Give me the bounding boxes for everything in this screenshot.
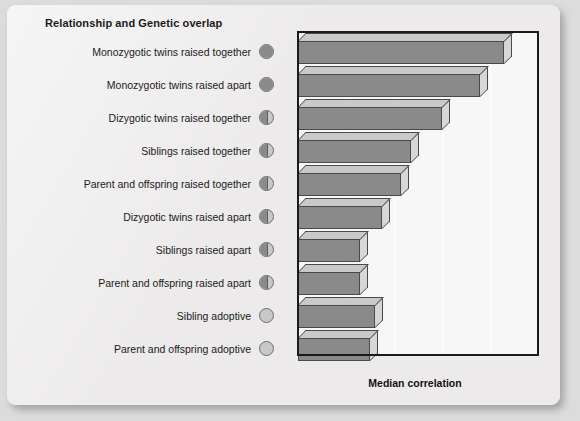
overlap-divider — [267, 210, 268, 223]
genetic-overlap-icon — [259, 110, 274, 125]
bar — [298, 198, 391, 231]
axis-top — [297, 31, 539, 33]
genetic-overlap-icon — [259, 77, 274, 92]
overlap-divider — [267, 276, 268, 289]
bar-front-face — [298, 74, 480, 97]
genetic-overlap-icon — [259, 308, 274, 323]
overlap-divider — [267, 111, 268, 124]
bar — [298, 99, 451, 132]
bar-front-face — [298, 338, 370, 361]
bar-front-face — [298, 239, 360, 262]
bar-top-face — [298, 99, 451, 107]
genetic-overlap-icon — [259, 176, 274, 191]
overlap-divider — [267, 177, 268, 190]
bar-top-face — [298, 297, 384, 305]
category-label: Parent and offspring raised together — [84, 178, 251, 190]
bar-top-face — [298, 198, 391, 206]
bar-front-face — [298, 305, 375, 328]
figure-card: Relationship and Genetic overlap Monozyg… — [7, 5, 560, 405]
category-label: Monozygotic twins raised apart — [107, 79, 251, 91]
bar-front-face — [298, 206, 382, 229]
category-label: Parent and offspring adoptive — [114, 343, 251, 355]
bar-front-face — [298, 272, 360, 295]
category-label: Siblings raised apart — [156, 244, 251, 256]
category-label: Parent and offspring raised apart — [98, 277, 251, 289]
category-label: Sibling adoptive — [177, 310, 251, 322]
category-label-column: Monozygotic twins raised togetherMonozyg… — [37, 31, 251, 356]
genetic-overlap-icon — [259, 143, 274, 158]
bar-front-face — [298, 107, 442, 130]
bar — [298, 33, 513, 66]
category-label: Monozygotic twins raised together — [92, 46, 251, 58]
screenshot-root: Relationship and Genetic overlap Monozyg… — [0, 0, 580, 421]
genetic-overlap-icon — [259, 44, 274, 59]
overlap-fill — [260, 45, 273, 58]
axis-y — [297, 31, 299, 356]
bar-front-face — [298, 140, 411, 163]
overlap-divider — [267, 243, 268, 256]
axis-right — [537, 31, 539, 356]
bar-top-face — [298, 165, 410, 173]
gridline — [490, 31, 491, 356]
genetic-overlap-icon — [259, 275, 274, 290]
genetic-overlap-icon — [259, 242, 274, 257]
bar-top-face — [298, 33, 513, 41]
genetic-overlap-icon — [259, 209, 274, 224]
bar-top-face — [298, 330, 379, 338]
bar — [298, 231, 369, 264]
bar — [298, 297, 384, 330]
category-label: Dizygotic twins raised together — [109, 112, 251, 124]
bar-front-face — [298, 173, 401, 196]
bar-top-face — [298, 264, 369, 272]
genetic-overlap-icon — [259, 341, 274, 356]
page-title: Relationship and Genetic overlap — [45, 17, 222, 29]
bar-top-face — [298, 132, 420, 140]
bar-front-face — [298, 41, 504, 64]
overlap-divider — [267, 144, 268, 157]
category-label: Dizygotic twins raised apart — [123, 211, 251, 223]
bar — [298, 264, 369, 297]
bar-top-face — [298, 66, 489, 74]
plot-area — [291, 31, 539, 356]
bar — [298, 330, 379, 363]
figure-surface: Relationship and Genetic overlap Monozyg… — [7, 5, 560, 405]
bar — [298, 132, 420, 165]
category-label: Siblings raised together — [141, 145, 251, 157]
bar — [298, 66, 489, 99]
bar — [298, 165, 410, 198]
overlap-fill — [260, 78, 273, 91]
genetic-overlap-column — [255, 31, 285, 356]
bar-top-face — [298, 231, 369, 239]
axis-x — [297, 354, 539, 356]
x-axis-title: Median correlation — [291, 377, 539, 389]
